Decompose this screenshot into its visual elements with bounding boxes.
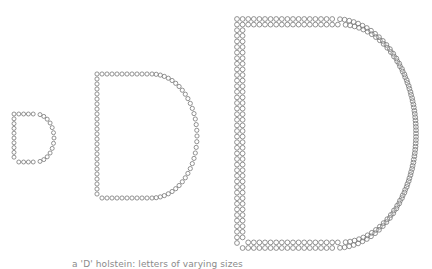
- letter-d-small: [12, 112, 56, 164]
- letter-d-medium: [95, 72, 199, 200]
- letter-d-figure: [0, 0, 432, 269]
- letter-d-large: [235, 17, 419, 251]
- figure-caption: a 'D' holstein: letters of varying sizes: [72, 259, 243, 269]
